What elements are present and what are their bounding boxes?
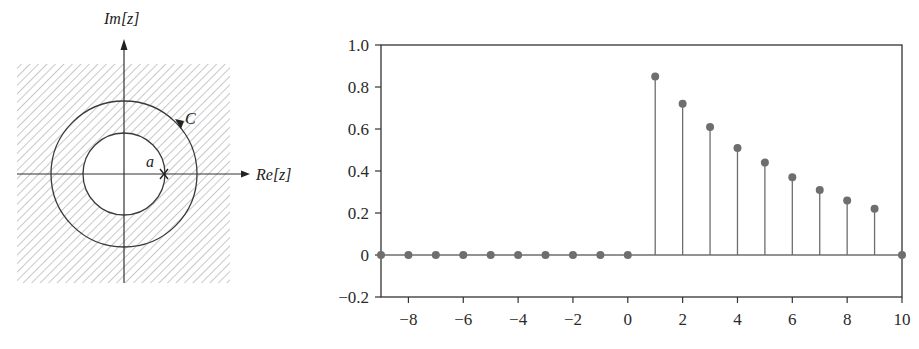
plot-border	[381, 45, 902, 297]
x-tick-label: −2	[564, 310, 582, 329]
x-axis-ticks: −8−6−4−20246810	[399, 297, 910, 329]
y-tick-label: 0.8	[348, 78, 369, 97]
y-tick-label: 0.2	[348, 204, 369, 223]
stem-marker	[871, 205, 879, 213]
stem-marker	[816, 186, 824, 194]
contour-label: C	[185, 110, 196, 127]
x-tick-label: 10	[894, 310, 911, 329]
stem-marker	[487, 251, 495, 259]
imag-axis-label: Im[z]	[103, 10, 140, 27]
plot-frame	[381, 45, 902, 297]
pole-label: a	[146, 153, 154, 170]
stem-marker	[679, 100, 687, 108]
stem-marker	[788, 173, 796, 181]
stem-marker	[432, 251, 440, 259]
y-tick-label: 1.0	[348, 36, 369, 55]
stem-marker	[651, 73, 659, 81]
stem-marker	[377, 251, 385, 259]
real-axis-label: Re[z]	[255, 166, 292, 183]
imag-axis-arrow-icon	[121, 39, 128, 50]
stem-marker	[898, 251, 906, 259]
x-tick-label: −4	[509, 310, 528, 329]
y-tick-label: 0	[361, 246, 370, 265]
stem-marker	[733, 144, 741, 152]
x-tick-label: −8	[399, 310, 417, 329]
stem-marker	[843, 196, 851, 204]
x-tick-label: 4	[733, 310, 742, 329]
x-tick-label: 0	[624, 310, 633, 329]
x-tick-label: 8	[843, 310, 852, 329]
stem-marker	[514, 251, 522, 259]
real-axis-arrow-icon	[241, 171, 250, 178]
y-tick-label: 0.4	[348, 162, 370, 181]
stem-marker	[459, 251, 467, 259]
z-plane-diagram: Im[z] Re[z] C a	[0, 0, 310, 349]
stem-marker	[761, 159, 769, 167]
x-tick-label: 2	[678, 310, 687, 329]
stem-marker	[596, 251, 604, 259]
stem-marker	[404, 251, 412, 259]
y-axis-ticks: 1.00.80.60.40.20−0.2	[338, 36, 381, 307]
y-tick-label: −0.2	[338, 288, 369, 307]
x-tick-label: −6	[454, 310, 472, 329]
stem-marker	[706, 123, 714, 131]
stem-series	[377, 73, 906, 260]
stem-marker	[542, 251, 550, 259]
stem-marker	[624, 251, 632, 259]
x-tick-label: 6	[788, 310, 797, 329]
y-tick-label: 0.6	[348, 120, 369, 139]
stem-marker	[569, 251, 577, 259]
